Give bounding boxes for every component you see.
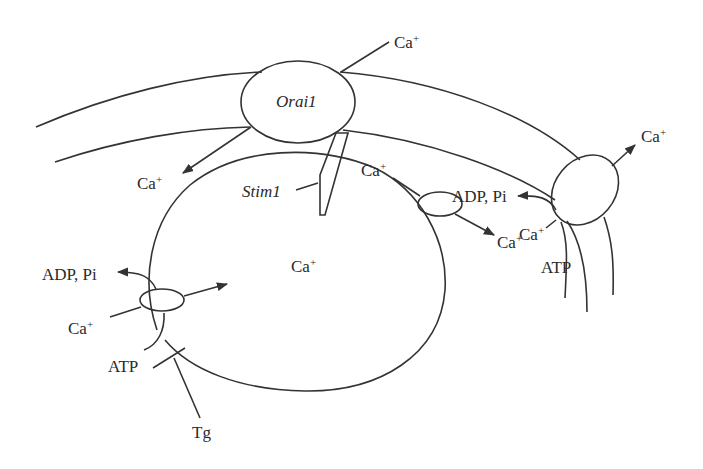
ca-label-pmca-in: Ca+ bbox=[519, 224, 544, 244]
diagram-canvas: Orai1 Ca+ Ca+ Ca+ Stim1 Ca+ Ca+ Ca+ ADP,… bbox=[0, 0, 703, 469]
atp-label-left: ATP bbox=[108, 357, 138, 376]
plasma-membrane-outer-right bbox=[340, 72, 580, 160]
ca-label-cytosol: Ca+ bbox=[137, 173, 162, 193]
stim1-pointer bbox=[296, 183, 318, 190]
calcium-diagram: Orai1 Ca+ Ca+ Ca+ Stim1 Ca+ Ca+ Ca+ ADP,… bbox=[0, 0, 703, 469]
plasma-membrane-inner bbox=[55, 127, 250, 162]
pmca-ca-out-arrow bbox=[612, 145, 635, 166]
stim1-label: Stim1 bbox=[242, 182, 281, 201]
pmca-ca-in-line bbox=[546, 220, 556, 228]
serca-ca-in-line bbox=[110, 307, 141, 317]
serca-adp-arrow bbox=[118, 272, 156, 289]
tg-inhibition-line bbox=[174, 358, 200, 418]
tg-inhibition-bar bbox=[153, 348, 185, 368]
orai1-ca-in-line bbox=[341, 42, 389, 72]
serca-pump bbox=[140, 289, 184, 311]
stim1-sensor bbox=[320, 133, 348, 215]
orai1-label: Orai1 bbox=[276, 92, 317, 111]
pmca-adp-arrow bbox=[518, 196, 556, 210]
serca-ca-into-er-arrow bbox=[184, 284, 227, 296]
er-ca-label: Ca+ bbox=[291, 256, 316, 276]
er-channel-ca-out-arrow bbox=[455, 214, 494, 235]
ca-label-extracellular: Ca+ bbox=[641, 126, 666, 146]
adp-pi-label-right: ADP, Pi bbox=[452, 187, 507, 206]
atp-label-right: ATP bbox=[541, 258, 571, 277]
er-channel-ca-in bbox=[393, 178, 420, 196]
adp-pi-label-left: ADP, Pi bbox=[42, 265, 97, 284]
ca-label-serca-in: Ca+ bbox=[68, 318, 93, 338]
orai1-ca-out-arrow bbox=[183, 127, 251, 173]
membrane-right-lower-1 bbox=[604, 217, 613, 295]
tg-label: Tg bbox=[192, 423, 211, 442]
ca-label-top: Ca+ bbox=[394, 32, 419, 52]
ca-label-er-in: Ca+ bbox=[361, 160, 386, 180]
plasma-membrane-outer bbox=[36, 72, 262, 127]
